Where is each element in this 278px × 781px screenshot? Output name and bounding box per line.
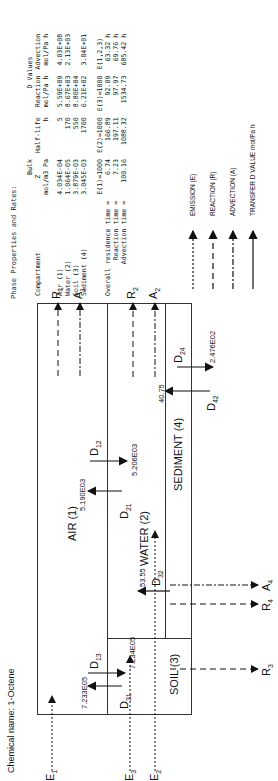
transfer-d12-label: D12 <box>88 440 102 456</box>
advection-a1-label: A1 <box>72 288 86 299</box>
transfer-d42-label: D42 <box>205 395 219 411</box>
transfer-d21-value: 5.190E03 <box>78 479 87 511</box>
transfer-d24-label: D24 <box>172 347 186 363</box>
transfer-d13-label: D13 <box>88 653 102 669</box>
reaction-r1-label: R1 <box>50 287 64 299</box>
transfer-d42-value: 40.75 <box>157 384 166 403</box>
transfer-d24-value: 2.476E02 <box>208 331 217 363</box>
transfer-d21-label: D21 <box>118 503 132 519</box>
transfer-d31-value: 7.233E05 <box>80 677 89 709</box>
reaction-r2-label: R2 <box>125 287 139 299</box>
transfer-d31-label: D31 <box>118 693 132 709</box>
emission-e1-label: E1 <box>44 770 58 781</box>
diagram-arrows <box>0 0 278 781</box>
rotated-document-page: Chemical name: 1-Octene Phase Properties… <box>0 0 278 781</box>
advection-a2-label: A2 <box>147 288 161 299</box>
reaction-r3-label: R3 <box>260 664 274 676</box>
advection-a4-label: A4 <box>260 580 274 591</box>
emission-e3-label: E3 <box>123 770 137 781</box>
transfer-d13-value: 7.234E05 <box>128 637 137 669</box>
reaction-r4-label: R4 <box>260 599 274 611</box>
emission-e2-label: E2 <box>148 770 162 781</box>
transfer-d32-label: D32 <box>150 570 164 586</box>
transfer-d12-value: 5.206E03 <box>130 444 139 476</box>
transfer-d32-value: 53.55 <box>138 568 147 587</box>
